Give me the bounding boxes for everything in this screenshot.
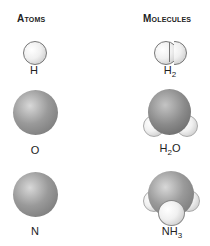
h2o-oxygen-sphere: [148, 89, 191, 135]
nitrogen-atom-label: N: [5, 225, 65, 237]
atoms-header: Atoms: [17, 13, 45, 24]
hydrogen-atom-sphere: [23, 41, 47, 65]
hydrogen-atom-label: H: [4, 64, 64, 76]
molecules-header: Molecules: [143, 13, 191, 24]
nitrogen-atom-sphere: [13, 172, 58, 217]
atoms-molecules-diagram: Atoms Molecules H H2 O H2O N NH3: [0, 0, 210, 246]
oxygen-atom-label: O: [5, 144, 65, 156]
nh3-front-hydrogen: [158, 200, 185, 226]
h2-bond-line: [169, 42, 170, 62]
h2-label: H2: [140, 64, 200, 79]
h2o-label: H2O: [140, 142, 200, 157]
oxygen-atom-sphere: [13, 90, 58, 135]
nh3-label: NH3: [142, 225, 202, 240]
